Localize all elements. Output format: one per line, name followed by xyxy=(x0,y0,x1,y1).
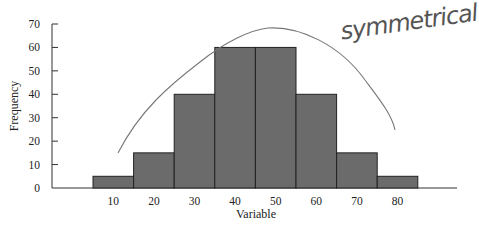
histogram-bar xyxy=(377,176,418,188)
x-axis-label: Variable xyxy=(236,207,276,221)
x-tick-label: 70 xyxy=(351,195,363,207)
x-tick-label: 50 xyxy=(270,195,282,207)
y-tick-label: 40 xyxy=(29,88,41,100)
x-tick-label: 20 xyxy=(148,195,160,207)
x-tick-label: 40 xyxy=(229,195,241,207)
y-tick-label: 50 xyxy=(29,65,41,77)
x-tick-label: 30 xyxy=(189,195,201,207)
y-tick-label: 60 xyxy=(29,41,41,53)
x-tick-label: 60 xyxy=(311,195,323,207)
x-tick-label: 10 xyxy=(108,195,120,207)
y-tick-label: 70 xyxy=(29,18,41,30)
y-tick-label: 20 xyxy=(29,135,41,147)
histogram-bar xyxy=(296,94,337,188)
y-tick-label: 30 xyxy=(29,112,41,124)
histogram-bar xyxy=(337,153,378,188)
histogram-bar xyxy=(215,47,256,188)
histogram-bar xyxy=(255,47,296,188)
y-tick-label: 0 xyxy=(34,182,40,194)
y-axis-label: Frequency xyxy=(7,81,21,132)
histogram-bar xyxy=(134,153,175,188)
histogram-bar xyxy=(93,176,134,188)
y-tick-label: 10 xyxy=(29,159,41,171)
x-tick-label: 80 xyxy=(392,195,404,207)
histogram-bar xyxy=(174,94,215,188)
